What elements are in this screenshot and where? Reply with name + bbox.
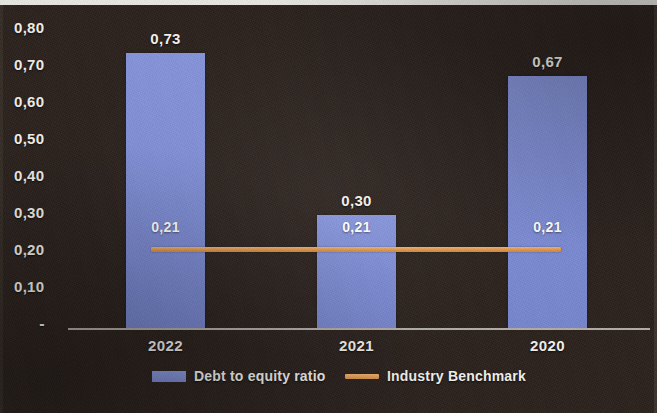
bar-value-label-2021: 0,30 xyxy=(317,192,396,209)
industry-benchmark-line xyxy=(151,247,561,252)
y-axis-tick-8: - xyxy=(22,315,62,333)
benchmark-value-label-2021: 0,21 xyxy=(317,219,396,235)
chart-legend: Debt to equity ratio Industry Benchmark xyxy=(0,368,657,390)
x-axis-tick-2020: 2020 xyxy=(508,337,587,354)
y-axis-tick-1: 0,70 xyxy=(14,56,72,73)
x-axis-tick-2021: 2021 xyxy=(317,337,396,354)
x-axis-line xyxy=(68,328,650,330)
legend-line-swatch-icon xyxy=(345,374,379,379)
x-axis-tick-2022: 2022 xyxy=(126,337,205,354)
y-axis-tick-0: 0,80 xyxy=(14,19,72,36)
legend-label-industry-benchmark: Industry Benchmark xyxy=(387,368,526,384)
y-axis-tick-7: 0,10 xyxy=(14,278,72,295)
y-axis-tick-5: 0,30 xyxy=(14,204,72,221)
legend-label-debt-to-equity-ratio: Debt to equity ratio xyxy=(194,368,326,384)
bar-value-label-2020: 0,67 xyxy=(508,53,587,70)
legend-item-industry-benchmark: Industry Benchmark xyxy=(345,368,526,384)
y-axis-tick-3: 0,50 xyxy=(14,130,72,147)
y-axis-tick-6: 0,20 xyxy=(14,241,72,258)
y-axis-tick-4: 0,40 xyxy=(14,167,72,184)
bar-2020 xyxy=(508,76,587,328)
legend-bar-swatch-icon xyxy=(152,371,186,382)
chart-screenshot: 0,80 0,70 0,60 0,50 0,40 0,30 0,20 0,10 … xyxy=(0,0,657,413)
bar-2022 xyxy=(126,53,205,328)
bar-value-label-2022: 0,73 xyxy=(126,30,205,47)
benchmark-value-label-2022: 0,21 xyxy=(126,219,205,235)
bar-chart-plot-area: 0,80 0,70 0,60 0,50 0,40 0,30 0,20 0,10 … xyxy=(0,0,657,413)
legend-item-debt-to-equity-ratio: Debt to equity ratio xyxy=(152,368,326,384)
benchmark-value-label-2020: 0,21 xyxy=(508,219,587,235)
y-axis-tick-2: 0,60 xyxy=(14,93,72,110)
